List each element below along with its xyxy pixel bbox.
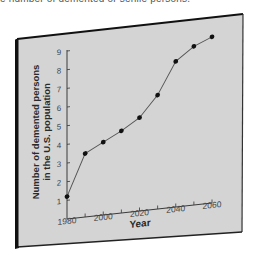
y-tick-label: 9 [57,48,62,58]
y-tick-label: 4 [57,141,62,151]
y-tick-labels: 123456789 [57,48,62,207]
y-tick-label: 8 [57,66,62,76]
x-tick-label: 1980 [58,215,77,227]
x-axis-label: Year [129,217,150,230]
y-tick-label: 7 [57,85,62,95]
y-tick-label: 2 [57,178,62,188]
y-axis-label-line-2: in the U.S. population [41,83,52,181]
x-tick-label: 2040 [166,203,185,215]
y-tick-label: 3 [57,160,62,170]
y-axis-label: Number of demented persons in the U.S. p… [30,65,52,200]
y-tick-label: 6 [57,104,62,114]
y-tick-label: 1 [57,197,62,207]
y-axis-label-line-1: Number of demented persons [30,65,41,200]
y-tick-label: 5 [57,122,62,132]
x-tick-label: 2000 [94,211,113,223]
chart-panel: 19802000202020402060 123456789 Year Numb… [0,0,257,268]
x-tick-label: 2060 [203,199,222,211]
